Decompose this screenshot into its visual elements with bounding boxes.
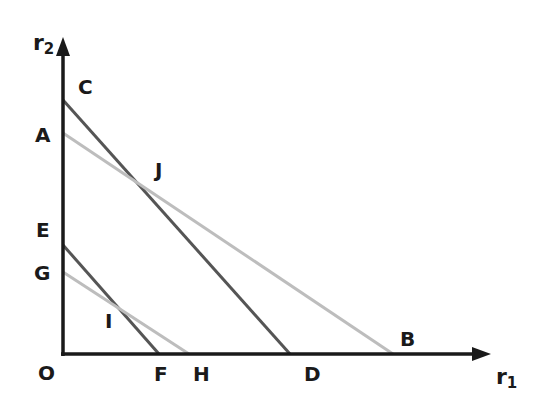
label-G: G xyxy=(34,261,50,285)
x-axis-label: r1 xyxy=(496,364,517,392)
label-C: C xyxy=(78,75,93,99)
label-J: J xyxy=(153,158,162,182)
x-axis-arrow-icon xyxy=(472,347,491,361)
line-GH xyxy=(63,272,189,354)
line-EF xyxy=(63,245,159,354)
label-O: O xyxy=(38,361,55,385)
label-D: D xyxy=(304,362,321,386)
y-axis-label: r2 xyxy=(33,30,54,58)
line-AB xyxy=(63,133,393,354)
label-A: A xyxy=(35,123,51,147)
label-I: I xyxy=(105,309,112,333)
budget-lines-diagram: r2 r1 C A J E G I O F H D B xyxy=(0,0,536,410)
y-axis-arrow-icon xyxy=(56,37,70,56)
label-F: F xyxy=(154,362,168,386)
label-H: H xyxy=(193,362,210,386)
label-E: E xyxy=(36,218,50,242)
line-CD xyxy=(63,100,290,354)
label-B: B xyxy=(400,327,415,351)
